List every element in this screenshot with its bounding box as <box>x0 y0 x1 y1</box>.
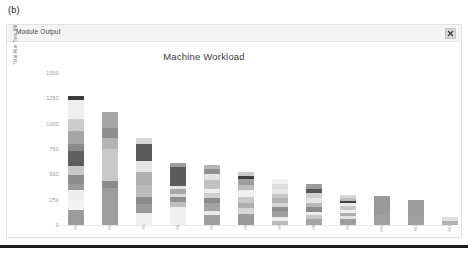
figure-panel-label: (b) <box>8 5 20 15</box>
bar-segment <box>238 214 254 225</box>
module-output-window: Module Output Machine Workload Total Run… <box>6 24 462 238</box>
x-axis-tick-label: M2 <box>108 225 113 239</box>
x-axis-tick-label: M12 <box>448 225 453 239</box>
y-axis-tick-label: 750 <box>25 146 59 152</box>
bar-segment <box>170 167 186 186</box>
bar-M2[interactable] <box>102 112 118 225</box>
bar-segment <box>136 172 152 185</box>
bar-segment <box>68 166 84 176</box>
close-button[interactable] <box>445 28 456 39</box>
window-titlebar: Module Output <box>7 25 461 42</box>
bar-segment <box>68 151 84 166</box>
y-axis-tick-label: 1250 <box>25 95 59 101</box>
bar-segment <box>102 112 118 128</box>
y-axis-tick-label: 500 <box>25 171 59 177</box>
x-axis-line <box>59 225 453 226</box>
x-axis-tick-label: M4 <box>176 225 181 239</box>
bar-M11[interactable] <box>408 200 424 225</box>
chart-title: Machine Workload <box>7 51 461 62</box>
x-axis-tick-label: M9 <box>346 225 351 239</box>
bar-segment <box>68 190 84 200</box>
bar-M3[interactable] <box>136 118 152 225</box>
bar-segment <box>102 138 118 149</box>
y-axis-tick-label: 1000 <box>25 121 59 127</box>
x-axis-tick-label: M5 <box>210 225 215 239</box>
bar-segment <box>68 131 84 145</box>
bar-segment <box>68 210 84 225</box>
y-axis-tick-label: 250 <box>25 197 59 203</box>
bar-M4[interactable] <box>170 154 186 225</box>
bar-segment <box>170 207 186 225</box>
bar-segment <box>102 188 118 225</box>
bar-M7[interactable] <box>272 179 288 225</box>
x-axis-tick-label: M11 <box>414 225 419 239</box>
bar-segment <box>136 144 152 162</box>
bar-M5[interactable] <box>204 165 220 225</box>
y-axis-tick-label: 1500 <box>25 70 59 76</box>
bar-segment <box>136 204 152 213</box>
figure-root: (b) Module Output Machine Workload Total… <box>0 0 468 260</box>
page-rule <box>0 245 468 248</box>
bar-M1[interactable] <box>68 96 84 225</box>
plot-canvas: M1M2M3M4M5M6M7M8M9M10M11M12 <box>59 73 453 225</box>
x-axis-tick-label: M3 <box>142 225 147 239</box>
bar-segment <box>68 119 84 131</box>
bar-M6[interactable] <box>238 172 254 225</box>
bar-segment <box>374 196 390 216</box>
x-axis-tick-label: M1 <box>74 225 79 239</box>
bar-segment <box>102 149 118 181</box>
bar-segment <box>68 175 84 184</box>
bar-segment <box>408 200 424 216</box>
bar-segment <box>136 161 152 172</box>
bar-M10[interactable] <box>374 196 390 225</box>
bar-segment <box>136 185 152 197</box>
bar-segment <box>136 213 152 225</box>
bar-segment <box>204 180 220 189</box>
bar-M8[interactable] <box>306 183 322 225</box>
bar-segment <box>136 197 152 204</box>
chart-panel: Machine Workload Total Run Time (Minutes… <box>7 42 461 238</box>
bar-segment <box>68 100 84 118</box>
bar-segment <box>204 203 220 211</box>
x-axis-tick-label: M10 <box>380 225 385 239</box>
close-icon <box>446 29 455 38</box>
bar-M9[interactable] <box>340 195 356 225</box>
bar-segment <box>68 200 84 210</box>
x-axis-tick-label: M7 <box>278 225 283 239</box>
y-axis-ticks: 0250500750100012501500 <box>7 42 59 238</box>
x-axis-tick-label: M8 <box>312 225 317 239</box>
bar-segment <box>238 190 254 198</box>
y-axis-tick-label: 0 <box>25 222 59 228</box>
x-axis-tick-label: M6 <box>244 225 249 239</box>
bar-segment <box>102 128 118 138</box>
